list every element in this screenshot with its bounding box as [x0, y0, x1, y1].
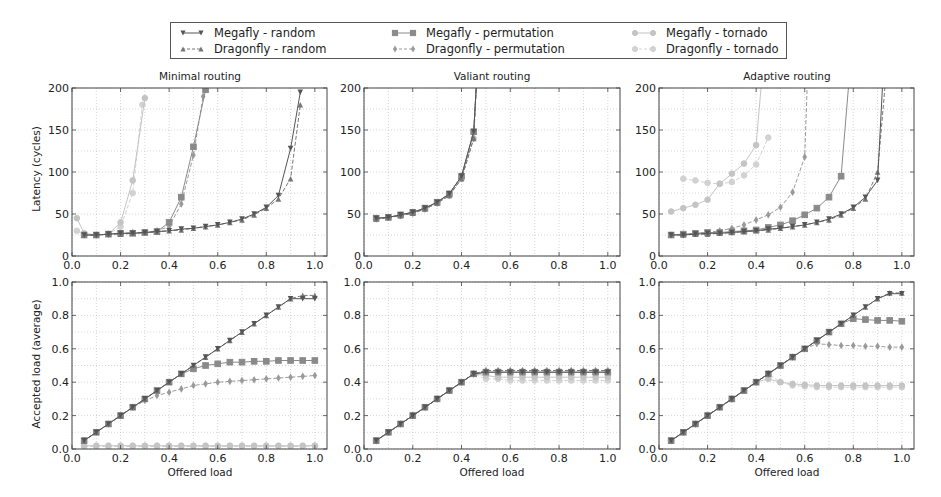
x-axis-label-valiant: Offered load: [364, 466, 620, 478]
svg-text:0: 0: [62, 250, 69, 263]
svg-text:0.2: 0.2: [699, 259, 717, 272]
legend-item-megafly-random: Megafly - random: [179, 25, 315, 41]
svg-text:150: 150: [48, 124, 69, 137]
legend-item-megafly-tornado: Megafly - tornado: [631, 25, 768, 41]
svg-text:0.0: 0.0: [52, 443, 70, 456]
svg-text:0.2: 0.2: [344, 410, 362, 423]
svg-text:0.4: 0.4: [52, 376, 70, 389]
svg-text:1.0: 1.0: [599, 452, 617, 465]
svg-text:50: 50: [347, 208, 361, 221]
svg-text:0.8: 0.8: [845, 452, 863, 465]
svg-text:0.2: 0.2: [112, 452, 130, 465]
svg-text:0.6: 0.6: [344, 343, 362, 356]
svg-text:0.2: 0.2: [699, 452, 717, 465]
svg-text:0.6: 0.6: [502, 259, 520, 272]
legend-item-dragonfly-permutation: Dragonfly - permutation: [391, 41, 565, 57]
chart-panel-5: 0.00.20.40.60.81.00.00.20.40.60.81.0: [639, 276, 915, 465]
legend-label: Dragonfly - random: [214, 42, 326, 56]
svg-text:0.4: 0.4: [747, 452, 765, 465]
svg-text:1.0: 1.0: [52, 276, 70, 289]
svg-text:1.0: 1.0: [893, 259, 911, 272]
chart-panel-4: 0.00.20.40.60.81.00.00.20.40.60.81.0: [344, 276, 621, 465]
panel-title-minimal: Minimal routing: [72, 70, 328, 82]
svg-text:100: 100: [48, 166, 69, 179]
svg-text:0.2: 0.2: [639, 410, 657, 423]
legend-marker-icon: [631, 27, 657, 39]
svg-text:0.4: 0.4: [160, 259, 178, 272]
svg-text:0.2: 0.2: [112, 259, 130, 272]
svg-text:0.0: 0.0: [344, 443, 362, 456]
legend-marker-icon: [391, 27, 417, 39]
svg-text:0.4: 0.4: [639, 376, 657, 389]
svg-text:150: 150: [635, 124, 656, 137]
y-axis-label-accepted-load: Accepted load (average): [30, 284, 42, 444]
legend-item-dragonfly-random: Dragonfly - random: [179, 41, 326, 57]
svg-text:0.8: 0.8: [550, 259, 568, 272]
svg-text:0.2: 0.2: [52, 410, 70, 423]
svg-text:50: 50: [55, 208, 69, 221]
svg-text:0.4: 0.4: [344, 376, 362, 389]
svg-text:200: 200: [635, 82, 656, 95]
svg-text:0.4: 0.4: [747, 259, 765, 272]
svg-text:0.4: 0.4: [160, 452, 178, 465]
panel-title-adaptive: Adaptive routing: [659, 70, 915, 82]
legend-label: Megafly - tornado: [666, 26, 768, 40]
legend-label: Megafly - random: [214, 26, 315, 40]
svg-text:1.0: 1.0: [306, 452, 324, 465]
svg-text:0.6: 0.6: [209, 452, 227, 465]
legend: Megafly - random Dragonfly - random Mega…: [170, 22, 787, 59]
svg-text:0.2: 0.2: [404, 259, 422, 272]
svg-text:0.8: 0.8: [344, 309, 362, 322]
svg-text:0.8: 0.8: [550, 452, 568, 465]
svg-text:0.8: 0.8: [639, 309, 657, 322]
legend-marker-icon: [631, 43, 657, 55]
svg-text:100: 100: [340, 166, 361, 179]
svg-text:0.8: 0.8: [258, 452, 276, 465]
svg-text:0.6: 0.6: [796, 259, 814, 272]
legend-label: Dragonfly - tornado: [666, 42, 779, 56]
svg-text:0.8: 0.8: [258, 259, 276, 272]
svg-text:0.8: 0.8: [52, 309, 70, 322]
chart-panel-2: 0.00.20.40.60.81.0050100150200: [635, 82, 914, 272]
svg-text:0.4: 0.4: [453, 452, 471, 465]
svg-text:1.0: 1.0: [599, 259, 617, 272]
legend-label: Dragonfly - permutation: [426, 42, 565, 56]
svg-text:200: 200: [48, 82, 69, 95]
svg-text:0.6: 0.6: [52, 343, 70, 356]
svg-text:1.0: 1.0: [306, 259, 324, 272]
legend-item-megafly-permutation: Megafly - permutation: [391, 25, 554, 41]
legend-item-dragonfly-tornado: Dragonfly - tornado: [631, 41, 779, 57]
svg-text:0.4: 0.4: [453, 259, 471, 272]
y-axis-label-latency: Latency (cycles): [30, 99, 42, 239]
svg-text:1.0: 1.0: [639, 276, 657, 289]
x-axis-label-adaptive: Offered load: [659, 466, 915, 478]
svg-text:50: 50: [642, 208, 656, 221]
chart-panel-3: 0.00.20.40.60.81.00.00.20.40.60.81.0: [52, 276, 328, 465]
svg-text:100: 100: [635, 166, 656, 179]
svg-text:0.0: 0.0: [639, 443, 657, 456]
legend-marker-icon: [391, 43, 417, 55]
svg-text:0.2: 0.2: [404, 452, 422, 465]
svg-text:200: 200: [340, 82, 361, 95]
legend-label: Megafly - permutation: [426, 26, 554, 40]
svg-text:0: 0: [649, 250, 656, 263]
panel-title-valiant: Valiant routing: [364, 70, 620, 82]
svg-text:1.0: 1.0: [344, 276, 362, 289]
svg-text:0.6: 0.6: [502, 452, 520, 465]
svg-text:0: 0: [354, 250, 361, 263]
legend-marker-icon: [179, 27, 205, 39]
chart-panel-1: 0.00.20.40.60.81.0050100150200: [340, 82, 620, 272]
svg-text:0.6: 0.6: [639, 343, 657, 356]
svg-text:0.6: 0.6: [796, 452, 814, 465]
chart-panel-0: 0.00.20.40.60.81.0050100150200: [48, 82, 327, 272]
x-axis-label-minimal: Offered load: [72, 466, 328, 478]
svg-text:0.6: 0.6: [209, 259, 227, 272]
svg-text:1.0: 1.0: [893, 452, 911, 465]
legend-marker-icon: [179, 43, 205, 55]
svg-text:150: 150: [340, 124, 361, 137]
svg-text:0.8: 0.8: [845, 259, 863, 272]
